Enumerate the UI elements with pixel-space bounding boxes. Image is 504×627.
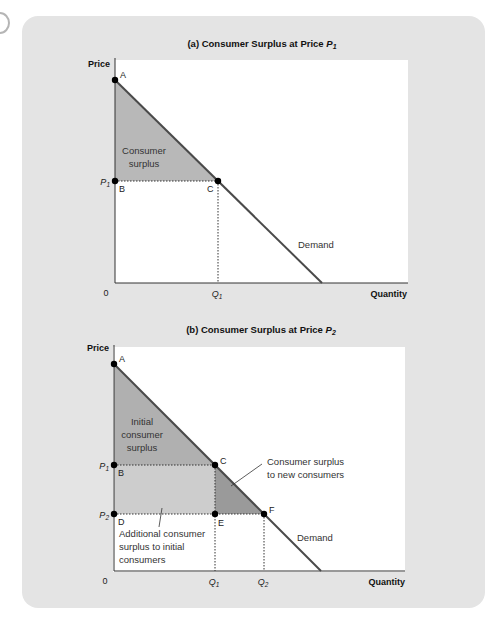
chart-a-ylabel: Price — [88, 59, 110, 69]
chart-b-label-d: D — [118, 517, 125, 527]
chart-b-point-c — [212, 462, 218, 468]
chart-b-additional-label-1: Additional consumer — [119, 528, 205, 539]
chart-b-point-d — [111, 511, 117, 517]
chart-b-origin: 0 — [102, 576, 107, 586]
chart-b-label-f: F — [269, 505, 275, 515]
chart-b-initial-label-3: surplus — [127, 442, 158, 453]
chart-b-p2-tick: P2 — [99, 510, 109, 521]
chart-b-point-a — [111, 361, 117, 367]
chart-a: (a) Consumer Surplus at Price P1 Price Q… — [88, 38, 408, 300]
chart-b-new-consumers-label-2: to new consumers — [267, 469, 344, 480]
chart-b-additional-label-3: consumers — [119, 554, 166, 565]
chart-b-additional-label-2: surplus to initial — [119, 541, 184, 552]
chart-a-surplus-label-1: Consumer — [122, 145, 166, 156]
chart-b-p1-tick: P1 — [99, 461, 109, 472]
chart-b-title: (b) Consumer Surplus at Price P2 — [186, 324, 336, 336]
chart-b-initial-label-2: consumer — [121, 429, 163, 440]
chart-b-ylabel: Price — [87, 343, 109, 353]
figure-svg: (a) Consumer Surplus at Price P1 Price Q… — [0, 0, 504, 627]
chart-a-xlabel: Quantity — [370, 289, 407, 299]
chart-b-q2-tick: Q2 — [258, 577, 269, 588]
chart-b-q1-tick: Q1 — [209, 577, 220, 588]
chart-b-demand-label: Demand — [297, 532, 333, 543]
chart-a-point-b — [112, 178, 118, 184]
chart-b-additional-surplus-area — [114, 465, 215, 514]
chart-a-demand-label: Demand — [298, 239, 334, 250]
chart-b-point-f — [261, 511, 267, 517]
chart-b-label-c: C — [220, 456, 227, 466]
chart-b-initial-label-1: Initial — [131, 416, 153, 427]
chart-b-new-consumers-label-1: Consumer surplus — [267, 456, 344, 467]
chart-b-label-e: E — [218, 518, 224, 528]
chart-b-point-b — [111, 462, 117, 468]
chart-b-point-e — [212, 511, 218, 517]
chart-a-p1-tick: P1 — [100, 177, 110, 188]
chart-a-label-c: C — [207, 184, 214, 194]
chart-b: (b) Consumer Surplus at Price P2 Price Q… — [87, 324, 405, 588]
chart-a-point-a — [112, 77, 118, 83]
chart-a-title: (a) Consumer Surplus at Price P1 — [187, 38, 336, 50]
chart-a-label-a: A — [120, 70, 126, 80]
chart-a-surplus-label-2: surplus — [129, 158, 160, 169]
chart-b-label-b: B — [118, 468, 124, 478]
chart-b-label-a: A — [119, 354, 125, 364]
chart-a-label-b: B — [119, 184, 125, 194]
chart-a-origin: 0 — [103, 288, 108, 298]
chart-b-xlabel: Quantity — [368, 577, 405, 587]
chart-a-point-c — [215, 178, 221, 184]
chart-a-q1-tick: Q1 — [212, 289, 223, 300]
